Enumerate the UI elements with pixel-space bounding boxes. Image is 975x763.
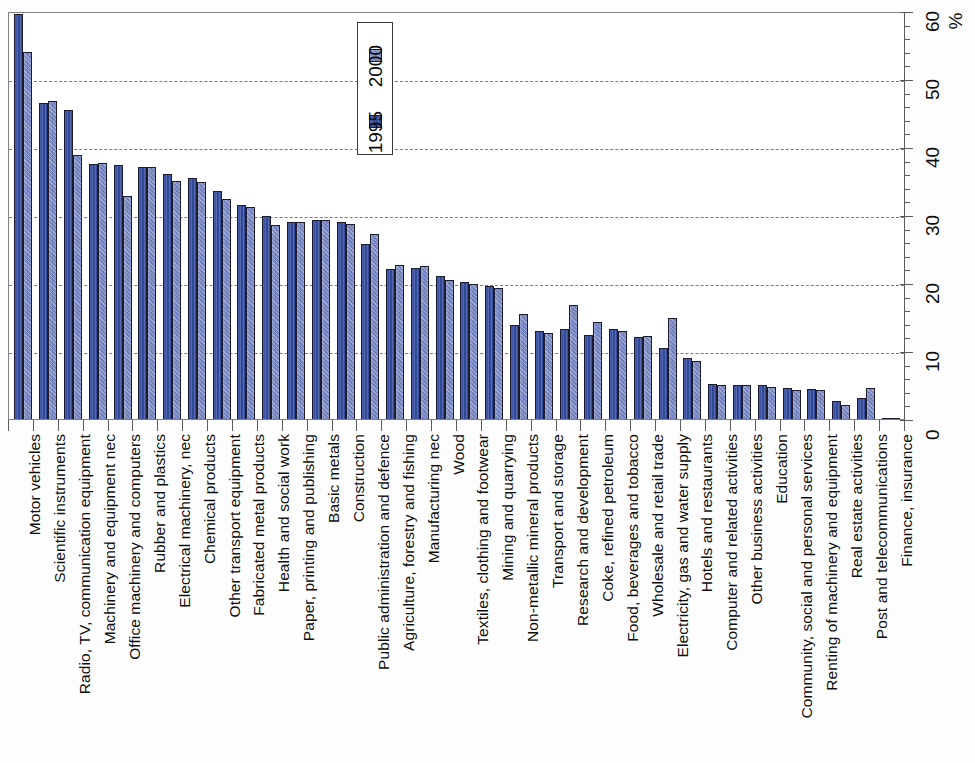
x-tick [132, 420, 133, 431]
bar-2000 [544, 333, 553, 419]
bar-1995 [436, 276, 445, 419]
plot-area [9, 13, 904, 419]
category-label: Coke, refined petroleum [599, 434, 617, 602]
bar-1995 [262, 216, 271, 419]
y-minor-tick [904, 66, 910, 67]
y-minor-tick [904, 175, 910, 176]
bar-1995 [460, 282, 469, 419]
x-tick [879, 420, 880, 431]
x-tick [531, 420, 532, 431]
y-tick-60 [900, 12, 913, 13]
bar-2000 [593, 322, 602, 419]
bar-1995 [138, 167, 147, 419]
category-label: Electrical machinery, nec [176, 434, 194, 608]
bar-group [457, 13, 482, 419]
bar-2000 [48, 101, 57, 419]
bar-2000 [891, 418, 900, 419]
x-tick [58, 420, 59, 431]
bar-group [308, 13, 333, 419]
category-label: Other transport equipment [226, 434, 244, 617]
bar-group [160, 13, 185, 419]
bar-2000 [494, 288, 503, 419]
x-tick [83, 420, 84, 431]
bar-1995 [609, 329, 618, 419]
x-axis-category-labels: Motor vehiclesScientific instrumentsRadi… [8, 432, 904, 762]
y-tick-30 [900, 216, 913, 217]
bar-1995 [361, 244, 370, 419]
category-label: Manufacturing nec [425, 434, 443, 563]
bar-2000 [816, 390, 825, 419]
y-tick-label-60: 60 [922, 0, 944, 32]
legend-entry-2000: 2000 [358, 23, 394, 89]
category-label: Radio, TV, communication equipment [76, 434, 94, 694]
x-tick [33, 420, 34, 431]
x-tick [804, 420, 805, 431]
legend-label-2000: 2000 [365, 45, 387, 87]
bar-1995 [733, 385, 742, 419]
bar-series-container [9, 13, 904, 419]
bar-group [432, 13, 457, 419]
y-minor-tick [904, 230, 910, 231]
plot-frame [8, 12, 904, 420]
bar-2000 [445, 280, 454, 419]
x-tick [232, 420, 233, 431]
x-tick [332, 420, 333, 431]
y-minor-tick [904, 325, 910, 326]
bar-group [333, 13, 358, 419]
chart-legend: 20001995 [357, 22, 393, 155]
y-minor-tick [904, 338, 910, 339]
x-tick [556, 420, 557, 431]
y-minor-tick [904, 379, 910, 380]
y-tick-label-50: 50 [922, 60, 944, 100]
bar-1995 [634, 337, 643, 419]
bar-group [110, 13, 135, 419]
x-tick [630, 420, 631, 431]
bar-2000 [767, 387, 776, 419]
category-label: Health and social work [275, 434, 293, 592]
bar-2000 [296, 222, 305, 419]
bar-1995 [411, 268, 420, 419]
bar-2000 [346, 224, 355, 419]
bar-2000 [197, 182, 206, 419]
bar-1995 [510, 325, 519, 419]
bar-1995 [114, 165, 123, 419]
x-tick [829, 420, 830, 431]
chart-page: 20001995 0102030405060 % Motor vehiclesS… [0, 0, 975, 763]
bar-2000 [569, 305, 578, 419]
category-label: Fabricated metal products [250, 434, 268, 616]
y-minor-tick [904, 243, 910, 244]
category-label: Public administration and defence [375, 434, 393, 670]
y-tick-40 [900, 148, 913, 149]
bar-1995 [188, 178, 197, 419]
bar-group [854, 13, 879, 419]
x-tick [406, 420, 407, 431]
category-label: Community, social and personal services [798, 434, 816, 718]
y-axis: 0102030405060 [904, 12, 905, 420]
category-label: Hotels and restaurants [698, 434, 716, 592]
x-tick [207, 420, 208, 431]
bar-group [705, 13, 730, 419]
category-label: Wood [450, 434, 468, 475]
bar-2000 [271, 225, 280, 419]
bar-2000 [395, 265, 404, 419]
bar-2000 [692, 361, 701, 419]
bar-1995 [39, 103, 48, 419]
y-minor-tick [904, 189, 910, 190]
bar-group [209, 13, 234, 419]
x-tick [605, 420, 606, 431]
category-label: Other business activities [748, 434, 766, 605]
y-tick-label-0: 0 [922, 400, 944, 440]
bar-2000 [469, 284, 478, 419]
y-tick-10 [900, 352, 913, 353]
category-label: Post and telecommunications [873, 434, 891, 639]
x-tick [755, 420, 756, 431]
bar-2000 [742, 385, 751, 419]
category-label: Motor vehicles [26, 434, 44, 535]
bar-group [135, 13, 160, 419]
category-label: Non-metallic mineral products [524, 434, 542, 642]
bar-group [680, 13, 705, 419]
x-tick [8, 420, 9, 431]
category-label: Scientific instruments [51, 434, 69, 583]
bar-1995 [783, 388, 792, 419]
category-label: Mining and quarrying [499, 434, 517, 581]
